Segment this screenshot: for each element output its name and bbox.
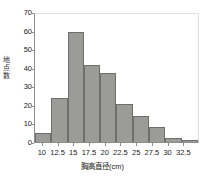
y-axis-title: 地 点 数: [1, 56, 12, 80]
x-axis-tick-mark: [73, 143, 74, 146]
x-axis-tick-labels: 1012.51517.52022.52527.53032.5: [34, 148, 199, 160]
x-axis-tick-label: 12.5: [50, 148, 65, 158]
x-axis-tick-mark: [152, 143, 153, 146]
bar: [100, 73, 116, 142]
y-axis-tick-label: 50: [12, 46, 32, 54]
y-axis-tick-mark: [31, 13, 34, 14]
bar: [133, 116, 149, 142]
x-axis-tick-mark: [168, 143, 169, 146]
x-axis-tick-label: 15: [69, 148, 77, 158]
y-axis-tick-mark: [31, 50, 34, 51]
y-axis-tick-mark: [31, 143, 34, 144]
x-axis-tick-label: 10: [38, 148, 46, 158]
y-axis-tick-mark: [31, 124, 34, 125]
x-axis-title: 胸高直径(cm): [0, 162, 205, 172]
y-axis-title-char: 地: [1, 56, 12, 64]
plot-area: [34, 13, 199, 143]
y-axis-title-char: 点: [1, 64, 12, 72]
bar: [51, 98, 67, 142]
x-axis-tick-marks: [34, 143, 199, 147]
bar: [165, 138, 181, 142]
y-axis-tick-mark: [31, 69, 34, 70]
x-axis-tick-mark: [105, 143, 106, 146]
y-axis-tick-mark: [31, 87, 34, 88]
y-axis-tick-label: 60: [12, 28, 32, 36]
bar: [182, 140, 198, 142]
y-axis-tick-label: 70: [12, 9, 32, 17]
bar: [149, 127, 165, 142]
bar: [68, 32, 84, 142]
y-axis-tick-mark: [31, 32, 34, 33]
bar-series: [35, 14, 198, 142]
x-axis-tick-mark: [183, 143, 184, 146]
x-axis-tick-label: 20: [101, 148, 109, 158]
x-axis-tick-mark: [120, 143, 121, 146]
x-axis-tick-label: 25: [132, 148, 140, 158]
y-axis-title-char: 数: [1, 72, 12, 80]
y-axis-tick-label: 40: [12, 65, 32, 73]
y-axis-tick-label: 10: [12, 120, 32, 128]
x-axis-tick-label: 17.5: [82, 148, 97, 158]
histogram-chart: 地 点 数 706050403020100 1012.51517.52022.5…: [0, 0, 205, 180]
x-axis-tick-label: 32.5: [176, 148, 191, 158]
y-axis-tick-labels: 706050403020100: [12, 0, 32, 180]
bar: [35, 133, 51, 142]
x-axis-tick-mark: [58, 143, 59, 146]
x-axis-tick-label: 30: [163, 148, 171, 158]
x-axis-tick-mark: [89, 143, 90, 146]
y-axis-tick-mark: [31, 106, 34, 107]
y-axis-tick-label: 30: [12, 83, 32, 91]
x-axis-tick-mark: [42, 143, 43, 146]
x-axis-tick-label: 22.5: [113, 148, 128, 158]
x-axis-tick-label: 27.5: [145, 148, 160, 158]
y-axis-tick-label: 20: [12, 102, 32, 110]
y-axis-tick-label: 0: [12, 139, 32, 147]
bar: [116, 104, 132, 142]
x-axis-tick-mark: [136, 143, 137, 146]
bar: [84, 65, 100, 142]
